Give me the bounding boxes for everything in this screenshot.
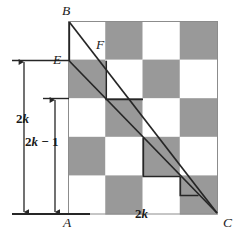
board-cell-shaded-r1c4 — [180, 21, 218, 60]
board-cell-shaded-r1c2 — [105, 21, 143, 60]
dimension-label-outer-height: 2k — [16, 111, 30, 126]
board-cell-shaded-r2c3 — [143, 60, 181, 99]
board-cell-shaded-r4c1 — [68, 137, 106, 176]
vertex-label-C: C — [223, 215, 233, 230]
board-cell-light-r3c1 — [68, 98, 106, 137]
board-cell-light-r1c3 — [143, 21, 181, 60]
board-cell-shaded-r3c4 — [180, 98, 218, 137]
checkerboard-figure: BEFAC 2k2k − 12k — [0, 0, 242, 243]
board-cell-light-r2c4 — [180, 60, 218, 99]
vertex-label-F: F — [95, 37, 105, 52]
board-cell-light-r5c3 — [143, 175, 181, 214]
board-cell-light-r4c4 — [180, 137, 218, 176]
dimension-label-base-width: 2k — [135, 206, 149, 221]
board-cell-light-r4c2 — [105, 137, 143, 176]
vertex-label-B: B — [62, 3, 70, 18]
board-cell-light-r5c1 — [68, 175, 106, 214]
vertex-label-A: A — [62, 215, 72, 230]
board-cell-light-r3c3 — [143, 98, 181, 137]
dimension-label-inner-height: 2k − 1 — [25, 134, 58, 149]
vertex-label-E: E — [52, 52, 62, 67]
